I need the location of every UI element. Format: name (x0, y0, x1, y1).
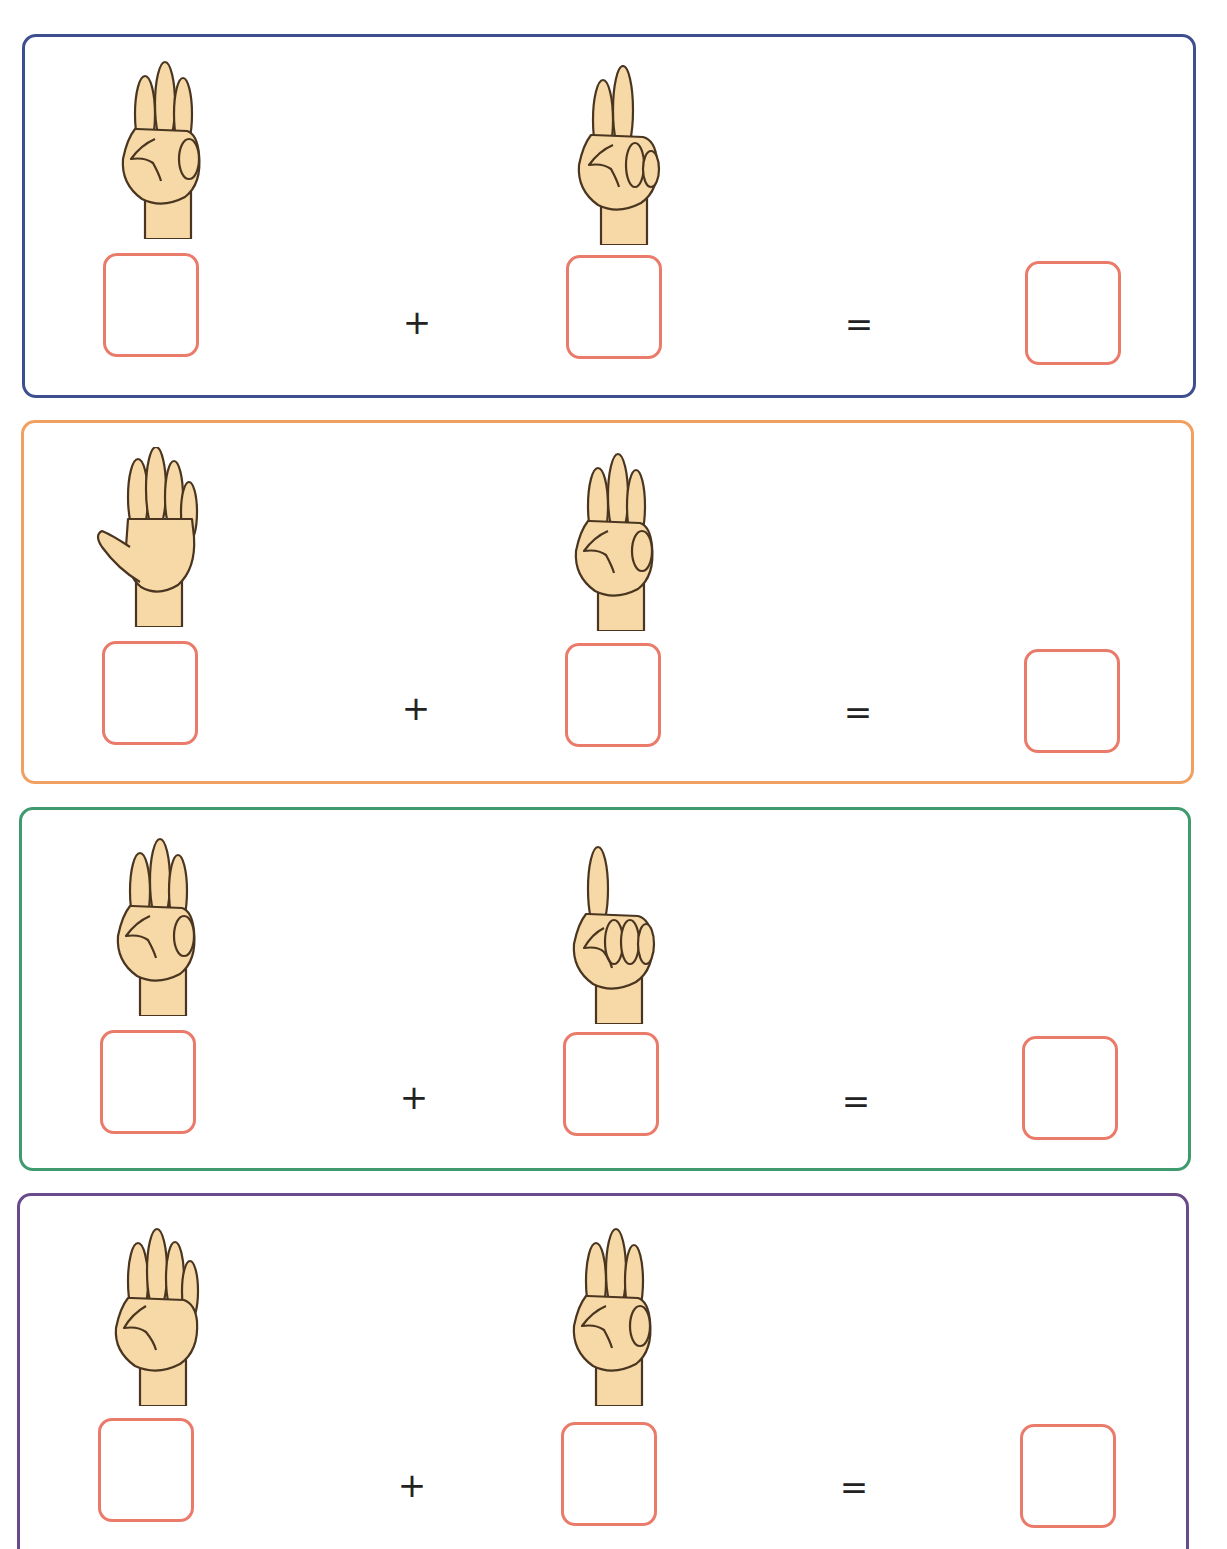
equals-sign: = (839, 307, 879, 341)
equals-sign: = (834, 1470, 874, 1504)
addend-box-right[interactable] (565, 643, 661, 747)
sum-box[interactable] (1022, 1036, 1118, 1140)
sum-box[interactable] (1020, 1424, 1116, 1528)
plus-sign: + (394, 1080, 434, 1114)
sum-box[interactable] (1024, 649, 1120, 753)
addend-box-right[interactable] (566, 255, 662, 359)
hand-three-fingers-icon (102, 836, 212, 1016)
sum-box[interactable] (1025, 261, 1121, 365)
addend-box-left[interactable] (102, 641, 198, 745)
problem-panel-2: + = (21, 420, 1194, 784)
hand-four-fingers-icon (102, 1226, 212, 1406)
plus-sign: + (397, 305, 437, 339)
addend-box-left[interactable] (98, 1418, 194, 1522)
hand-three-fingers-icon (107, 59, 217, 239)
problem-panel-4: + = (17, 1193, 1189, 1549)
equals-sign: = (836, 1084, 876, 1118)
hand-two-fingers-icon (563, 65, 673, 245)
hand-five-fingers-icon (96, 447, 206, 627)
plus-sign: + (392, 1468, 432, 1502)
hand-three-fingers-icon (558, 1226, 668, 1406)
addend-box-left[interactable] (103, 253, 199, 357)
equals-sign: = (838, 695, 878, 729)
hand-one-finger-icon (558, 844, 668, 1024)
hand-three-fingers-icon (560, 451, 670, 631)
addend-box-right[interactable] (561, 1422, 657, 1526)
addend-box-left[interactable] (100, 1030, 196, 1134)
addend-box-right[interactable] (563, 1032, 659, 1136)
plus-sign: + (396, 691, 436, 725)
problem-panel-1: + = (22, 34, 1196, 398)
problem-panel-3: + = (19, 807, 1191, 1171)
